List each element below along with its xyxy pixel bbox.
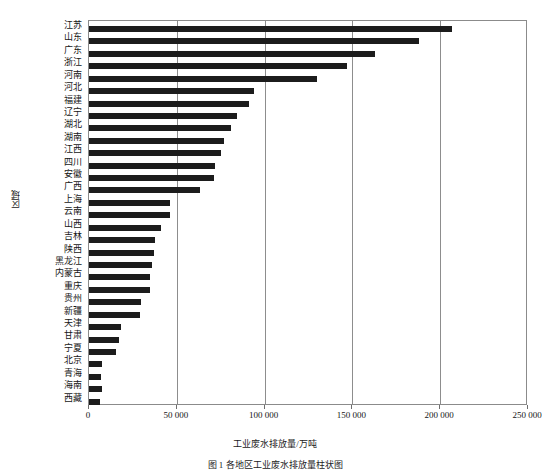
bar-row: [89, 396, 526, 408]
bar-江西[interactable]: [89, 150, 221, 156]
bar-row: [89, 135, 526, 147]
x-tick-label-0: 0: [86, 410, 91, 420]
bar-重庆[interactable]: [89, 287, 150, 293]
x-tick-250000: [527, 405, 528, 409]
x-tick-100000: [264, 405, 265, 409]
bar-row: [89, 209, 526, 221]
bar-河北[interactable]: [89, 88, 254, 94]
bar-四川[interactable]: [89, 163, 215, 169]
y-tick-label-云南: 云南: [64, 205, 82, 217]
y-tick-label-浙江: 浙江: [64, 56, 82, 68]
y-tick-label-福建: 福建: [64, 94, 82, 106]
bar-湖南[interactable]: [89, 138, 224, 144]
bar-row: [89, 371, 526, 383]
y-tick-label-天津: 天津: [64, 317, 82, 329]
bar-天津[interactable]: [89, 324, 121, 330]
bar-浙江[interactable]: [89, 63, 347, 69]
bar-山西[interactable]: [89, 225, 161, 231]
bar-江苏[interactable]: [89, 26, 452, 32]
x-tick-0: [88, 405, 89, 409]
bar-row: [89, 247, 526, 259]
y-tick-label-黑龙江: 黑龙江: [55, 255, 82, 267]
x-tick-label-50000: 50 000: [163, 410, 188, 420]
x-tick-label-200000: 200 000: [425, 410, 454, 420]
bar-row: [89, 110, 526, 122]
bar-青海[interactable]: [89, 374, 101, 380]
bar-陕西[interactable]: [89, 250, 154, 256]
bar-山东[interactable]: [89, 38, 419, 44]
x-tick-50000: [176, 405, 177, 409]
y-tick-label-湖北: 湖北: [64, 118, 82, 130]
y-tick-label-陕西: 陕西: [64, 243, 82, 255]
bar-row: [89, 197, 526, 209]
bar-吉林[interactable]: [89, 237, 155, 243]
bar-新疆[interactable]: [89, 312, 140, 318]
bar-row: [89, 346, 526, 358]
bar-海南[interactable]: [89, 386, 102, 392]
bar-北京[interactable]: [89, 361, 102, 367]
figure-caption: 图 1 各地区工业废水排放量柱状图: [0, 458, 550, 471]
y-tick-label-吉林: 吉林: [64, 230, 82, 242]
bar-福建[interactable]: [89, 101, 249, 107]
bar-row: [89, 73, 526, 85]
y-tick-label-西藏: 西藏: [64, 392, 82, 404]
y-tick-label-江苏: 江苏: [64, 19, 82, 31]
y-tick-label-辽宁: 辽宁: [64, 106, 82, 118]
bar-内蒙古[interactable]: [89, 274, 150, 280]
bar-row: [89, 172, 526, 184]
bar-黑龙江[interactable]: [89, 262, 152, 268]
bar-湖北[interactable]: [89, 125, 231, 131]
y-tick-label-广西: 广西: [64, 180, 82, 192]
bar-宁夏[interactable]: [89, 349, 116, 355]
bar-row: [89, 23, 526, 35]
y-tick-label-上海: 上海: [64, 193, 82, 205]
bar-row: [89, 271, 526, 283]
bar-row: [89, 60, 526, 72]
y-axis-tick-labels: 江苏山东广东浙江河南河北福建辽宁湖北湖南江西四川安徽广西上海云南山西吉林陕西黑龙…: [38, 20, 85, 405]
bar-甘肃[interactable]: [89, 337, 119, 343]
bar-安徽[interactable]: [89, 175, 214, 181]
bar-row: [89, 309, 526, 321]
y-tick-label-广东: 广东: [64, 44, 82, 56]
bar-广西[interactable]: [89, 187, 200, 193]
bar-贵州[interactable]: [89, 299, 141, 305]
bar-row: [89, 122, 526, 134]
y-axis-title: 区域: [10, 190, 34, 208]
bar-河南[interactable]: [89, 76, 317, 82]
bar-row: [89, 222, 526, 234]
y-tick-label-宁夏: 宁夏: [64, 342, 82, 354]
y-tick-label-海南: 海南: [64, 379, 82, 391]
y-tick-label-湖南: 湖南: [64, 131, 82, 143]
bar-row: [89, 383, 526, 395]
bar-row: [89, 333, 526, 345]
bar-row: [89, 147, 526, 159]
y-tick-label-北京: 北京: [64, 354, 82, 366]
bar-series: [89, 21, 526, 404]
y-tick-label-山西: 山西: [64, 218, 82, 230]
y-tick-label-重庆: 重庆: [64, 280, 82, 292]
y-tick-label-河南: 河南: [64, 69, 82, 81]
x-tick-200000: [439, 405, 440, 409]
bar-row: [89, 296, 526, 308]
bar-云南[interactable]: [89, 212, 170, 218]
bar-row: [89, 85, 526, 97]
x-axis-title: 工业废水排放量/万吨: [0, 437, 550, 450]
bar-row: [89, 284, 526, 296]
bar-广东[interactable]: [89, 51, 375, 57]
y-tick-label-青海: 青海: [64, 367, 82, 379]
bar-row: [89, 35, 526, 47]
bar-row: [89, 234, 526, 246]
y-tick-label-甘肃: 甘肃: [64, 329, 82, 341]
y-tick-label-河北: 河北: [64, 81, 82, 93]
bar-row: [89, 48, 526, 60]
bar-row: [89, 321, 526, 333]
bar-row: [89, 358, 526, 370]
x-tick-150000: [351, 405, 352, 409]
bar-row: [89, 184, 526, 196]
bar-西藏[interactable]: [89, 399, 100, 405]
bar-辽宁[interactable]: [89, 113, 237, 119]
x-tick-label-250000: 250 000: [512, 410, 541, 420]
y-tick-label-山东: 山东: [64, 31, 82, 43]
y-tick-label-安徽: 安徽: [64, 168, 82, 180]
bar-上海[interactable]: [89, 200, 170, 206]
